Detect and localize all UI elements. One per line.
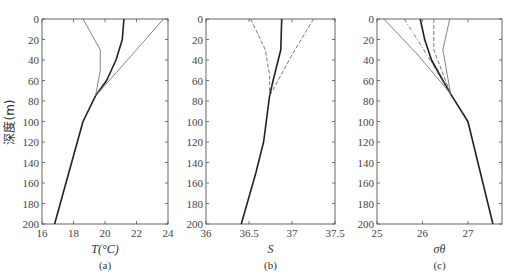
series-thick — [55, 19, 124, 224]
y-tick-label: 100 — [187, 116, 204, 128]
y-tick-label: 0 — [198, 13, 204, 25]
panel-b: 0204060801001201401601802003636.53737.5S… — [187, 13, 346, 272]
series-long-dash — [434, 19, 451, 94]
y-tick-label: 180 — [23, 198, 40, 210]
x-tick-label: 16 — [37, 227, 49, 239]
y-tick-label: 40 — [363, 54, 375, 66]
x-tick-label: 18 — [68, 227, 80, 239]
y-tick-label: 0 — [34, 13, 40, 25]
y-tick-label: 20 — [363, 34, 375, 46]
x-tick-label: 36.5 — [239, 227, 259, 239]
y-tick-label: 120 — [23, 136, 40, 148]
panel-a: 0204060801001201401601802001618202224T(°… — [23, 13, 175, 272]
x-tick-label: 20 — [100, 227, 112, 239]
y-tick-label: 80 — [363, 95, 375, 107]
x-tick-label: 36 — [201, 227, 213, 239]
y-tick-label: 180 — [187, 198, 204, 210]
x-tick-label: 22 — [131, 227, 142, 239]
series-thin-left — [83, 19, 100, 96]
series-thick — [420, 19, 493, 224]
y-tick-label: 80 — [28, 95, 40, 107]
y-tick-label: 100 — [358, 116, 375, 128]
y-tick-label: 160 — [187, 177, 204, 189]
y-axis-label: 深度(m) — [2, 99, 17, 144]
y-tick-label: 100 — [23, 116, 40, 128]
x-tick-label: 26 — [417, 227, 429, 239]
y-tick-label: 120 — [187, 136, 204, 148]
x-tick-label: 27 — [462, 227, 474, 239]
y-tick-label: 140 — [23, 157, 40, 169]
x-axis-label: σθ — [434, 242, 446, 256]
series-thin-right — [96, 19, 164, 96]
y-tick-label: 20 — [192, 34, 204, 46]
y-tick-label: 140 — [358, 157, 375, 169]
y-tick-label: 40 — [28, 54, 40, 66]
panel-label: (c) — [433, 259, 446, 272]
x-tick-label: 25 — [372, 227, 384, 239]
series-thick — [241, 19, 281, 224]
y-tick-label: 160 — [358, 177, 375, 189]
axes-frame — [206, 19, 335, 224]
y-tick-label: 80 — [192, 95, 204, 107]
x-tick-label: 37.5 — [325, 227, 345, 239]
y-tick-label: 140 — [187, 157, 204, 169]
axes-frame — [42, 19, 168, 224]
series-thin-far-left — [384, 19, 451, 94]
figure-canvas: 深度(m)02040608010012014016018020016182022… — [0, 0, 514, 278]
y-tick-label: 60 — [363, 75, 375, 87]
series-dashed-left — [251, 19, 270, 96]
y-tick-label: 60 — [28, 75, 40, 87]
y-tick-label: 60 — [192, 75, 204, 87]
y-tick-label: 0 — [369, 13, 375, 25]
y-tick-label: 40 — [192, 54, 204, 66]
panel-c: 020406080100120140160180200252627σθ(c) — [358, 13, 503, 272]
y-tick-label: 160 — [23, 177, 40, 189]
x-axis-label: S — [268, 242, 274, 256]
y-tick-label: 180 — [358, 198, 375, 210]
y-tick-label: 20 — [28, 34, 40, 46]
axes-frame — [377, 19, 502, 224]
series-dashed-right — [270, 19, 314, 96]
panel-label: (b) — [264, 259, 277, 272]
x-tick-label: 37 — [287, 227, 299, 239]
panel-label: (a) — [99, 259, 112, 272]
x-axis-label: T(°C) — [91, 242, 118, 256]
y-tick-label: 120 — [358, 136, 375, 148]
x-tick-label: 24 — [163, 227, 175, 239]
